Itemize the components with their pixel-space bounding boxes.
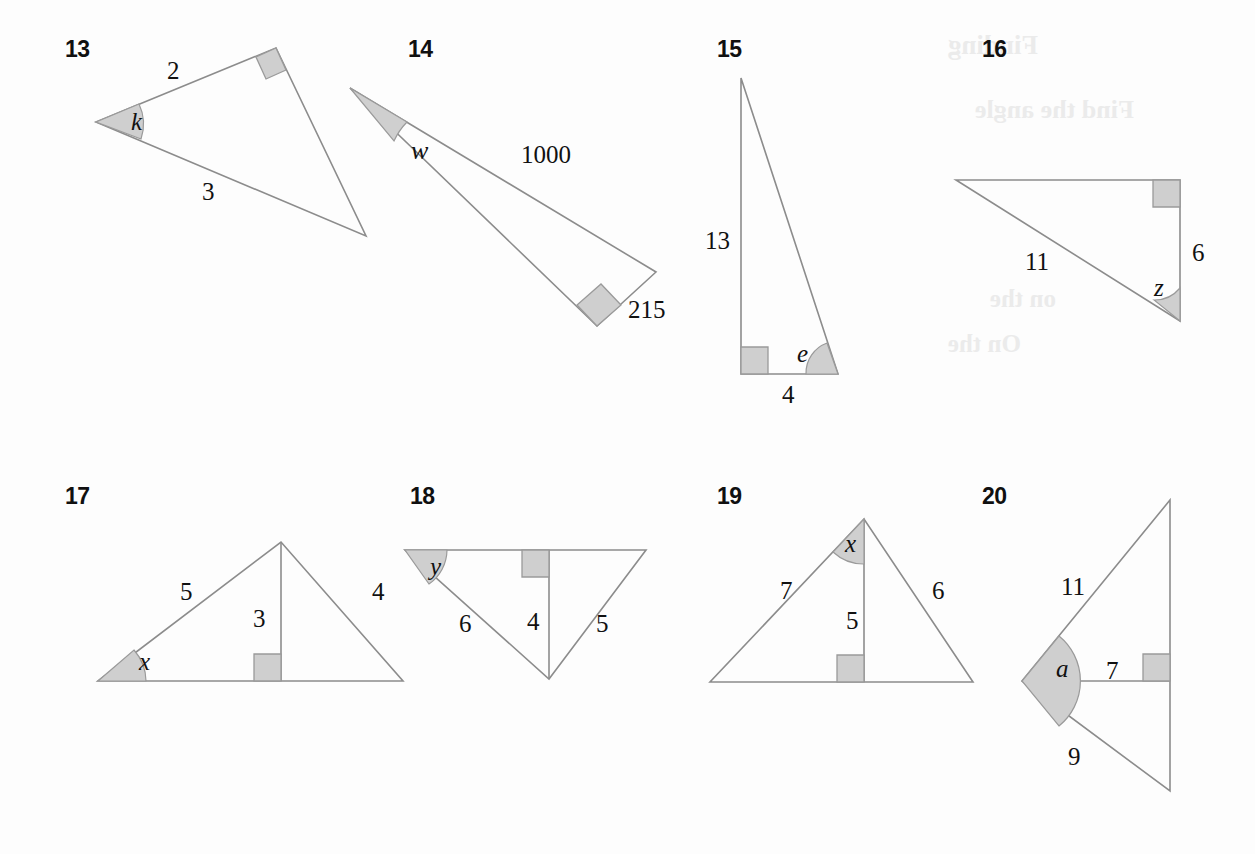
- worksheet-page: FindingFind the angleon theOn the 13 2 3…: [0, 0, 1255, 854]
- label-altitude-7: 7: [1106, 657, 1119, 685]
- label-side-11: 11: [1061, 573, 1085, 601]
- triangle-20-outline: [1022, 500, 1170, 791]
- angle-marker-a: [1022, 636, 1080, 726]
- label-side-9: 9: [1068, 743, 1081, 771]
- right-angle-marker-20: [1143, 654, 1170, 681]
- label-angle-a: a: [1056, 655, 1069, 683]
- figure-20: [0, 0, 1255, 854]
